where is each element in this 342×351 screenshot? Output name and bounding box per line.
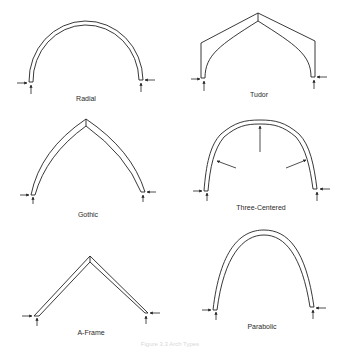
arch-drawings (0, 0, 342, 351)
a-frame-arch (22, 256, 160, 326)
gothic-arch (20, 119, 156, 204)
arch-types-diagram: Radial Tudor Gothic Three-Centered A-Fra… (0, 0, 342, 351)
three-centered-label: Three-Centered (236, 204, 285, 211)
tudor-label: Tudor (250, 91, 268, 98)
radial-arch (17, 21, 155, 94)
tudor-arch (191, 13, 327, 91)
three-centered-arch (193, 120, 330, 201)
gothic-label: Gothic (78, 211, 98, 218)
figure-caption: Figure 3.3 Arch Types (141, 341, 199, 347)
parabolic-arch (202, 230, 326, 320)
radial-label: Radial (76, 95, 96, 102)
a-frame-label: A-Frame (77, 329, 104, 336)
parabolic-label: Parabolic (247, 323, 276, 330)
